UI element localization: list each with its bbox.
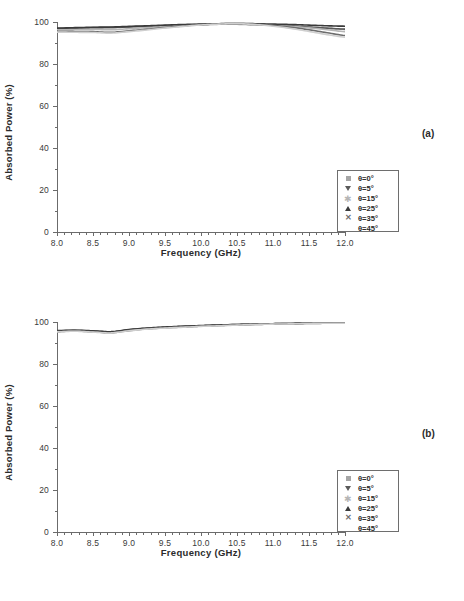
panel-a: Absorbed Power (%) 020406080100 8.08.59.…	[0, 0, 464, 295]
x-minor-tick-mark	[266, 532, 267, 535]
x-tick-mark	[201, 232, 202, 236]
x-minor-tick-mark	[287, 232, 288, 235]
legend-label: θ=45°	[358, 524, 378, 533]
x-tick-mark	[273, 232, 274, 236]
y-tick-label: 40	[39, 443, 49, 453]
x-minor-tick-mark	[100, 532, 101, 535]
y-minor-tick-mark	[55, 511, 58, 512]
x-minor-tick-mark	[295, 532, 296, 535]
x-tick-mark	[237, 232, 238, 236]
y-tick-mark	[53, 22, 57, 23]
x-minor-tick-mark	[151, 232, 152, 235]
x-minor-tick-mark	[79, 232, 80, 235]
x-minor-tick-mark	[79, 532, 80, 535]
cross-x-marker: ✕	[338, 215, 358, 221]
x-minor-tick-mark	[259, 232, 260, 235]
x-minor-tick-mark	[323, 232, 324, 235]
legend-b: θ=0° θ=5° ✱ θ=15° θ=25° ✕ θ=35°	[337, 470, 399, 532]
series-container-b	[57, 322, 345, 532]
legend-item: ✱ θ=15°	[338, 194, 398, 204]
x-minor-tick-mark	[71, 232, 72, 235]
x-tick-mark	[57, 532, 58, 536]
y-tick-mark	[53, 190, 57, 191]
x-minor-tick-mark	[71, 532, 72, 535]
x-minor-tick-mark	[251, 532, 252, 535]
no-marker	[338, 525, 358, 531]
x-minor-tick-mark	[280, 232, 281, 235]
x-minor-tick-mark	[251, 232, 252, 235]
x-minor-tick-mark	[115, 232, 116, 235]
x-minor-tick-mark	[194, 532, 195, 535]
x-minor-tick-mark	[64, 232, 65, 235]
y-tick-mark	[53, 448, 57, 449]
x-minor-tick-mark	[136, 532, 137, 535]
x-minor-tick-mark	[223, 532, 224, 535]
legend-label: θ=35°	[358, 214, 378, 223]
y-minor-tick-mark	[55, 43, 58, 44]
x-minor-tick-mark	[316, 532, 317, 535]
x-minor-tick-mark	[64, 532, 65, 535]
x-minor-tick-mark	[86, 232, 87, 235]
y-tick-mark	[53, 148, 57, 149]
legend-item: θ=5°	[338, 484, 398, 494]
x-minor-tick-mark	[136, 232, 137, 235]
x-tick-mark	[273, 532, 274, 536]
x-tick-label: 11.0	[265, 538, 282, 548]
x-minor-tick-mark	[86, 532, 87, 535]
x-minor-tick-mark	[331, 532, 332, 535]
y-tick-mark	[53, 106, 57, 107]
legend-label: θ=0°	[358, 174, 374, 183]
x-tick-label: 12.0	[336, 238, 353, 248]
down-triangle-marker	[338, 186, 358, 191]
y-tick-label: 40	[39, 143, 49, 153]
y-minor-tick-mark	[55, 211, 58, 212]
y-tick-mark	[53, 406, 57, 407]
x-minor-tick-mark	[107, 232, 108, 235]
legend-item: ✱ θ=15°	[338, 494, 398, 504]
x-minor-tick-mark	[266, 232, 267, 235]
legend-label: θ=35°	[358, 514, 378, 523]
star-marker: ✱	[338, 196, 358, 202]
y-tick-label: 100	[34, 17, 49, 27]
square-marker	[338, 476, 358, 481]
x-minor-tick-mark	[151, 532, 152, 535]
plot-area-b: 020406080100 8.08.59.09.510.010.511.011.…	[57, 322, 345, 532]
x-minor-tick-mark	[172, 232, 173, 235]
up-triangle-marker	[338, 506, 358, 511]
x-minor-tick-mark	[259, 532, 260, 535]
x-minor-tick-mark	[208, 232, 209, 235]
x-minor-tick-mark	[143, 532, 144, 535]
x-minor-tick-mark	[230, 532, 231, 535]
legend-a: θ=0° θ=5° ✱ θ=15° θ=25° ✕ θ=35°	[337, 170, 399, 232]
x-minor-tick-mark	[302, 532, 303, 535]
x-tick-mark	[201, 532, 202, 536]
star-marker: ✱	[338, 496, 358, 502]
x-tick-mark	[93, 232, 94, 236]
x-minor-tick-mark	[316, 232, 317, 235]
y-tick-label: 80	[39, 359, 49, 369]
x-minor-tick-mark	[187, 532, 188, 535]
x-tick-label: 8.0	[51, 238, 63, 248]
square-marker	[338, 176, 358, 181]
plot-area-a: 020406080100 8.08.59.09.510.010.511.011.…	[57, 22, 345, 232]
x-minor-tick-mark	[100, 232, 101, 235]
y-axis-label-b: Absorbed Power (%)	[3, 384, 14, 481]
series-line	[57, 24, 345, 37]
x-minor-tick-mark	[302, 232, 303, 235]
y-tick-label: 100	[34, 317, 49, 327]
x-minor-tick-mark	[187, 232, 188, 235]
y-minor-tick-mark	[55, 385, 58, 386]
x-minor-tick-mark	[323, 532, 324, 535]
x-tick-label: 8.5	[87, 238, 99, 248]
y-tick-mark	[53, 64, 57, 65]
legend-item: θ=45°	[338, 223, 398, 233]
up-triangle-marker	[338, 206, 358, 211]
y-tick-label: 80	[39, 59, 49, 69]
cross-x-marker: ✕	[338, 515, 358, 521]
x-minor-tick-mark	[172, 532, 173, 535]
x-tick-mark	[57, 232, 58, 236]
y-minor-tick-mark	[55, 169, 58, 170]
x-minor-tick-mark	[122, 532, 123, 535]
legend-label: θ=25°	[358, 504, 378, 513]
panel-tag-b: (b)	[422, 428, 435, 439]
